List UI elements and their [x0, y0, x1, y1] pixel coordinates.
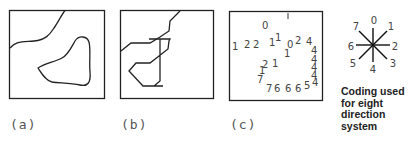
panel-b: [121, 11, 214, 99]
chain-code-digit: 4: [312, 77, 318, 88]
chain-code-digit: 2: [253, 39, 259, 50]
direction-label-2: 2: [392, 41, 398, 52]
chain-code-digit: 1: [275, 32, 281, 43]
direction-key: [356, 28, 390, 62]
panel-a-region-outline: [38, 37, 90, 85]
panel-b-frame: [121, 11, 214, 99]
chain-code-digit: 5: [304, 80, 310, 91]
chain-code-digit: 6: [274, 83, 280, 94]
direction-label-1: 1: [388, 21, 394, 32]
chain-code-digit: 1: [272, 58, 278, 69]
panel-c: 012211024142141474766654: [230, 12, 323, 101]
caption-line-3: direction: [341, 109, 411, 121]
chain-code-digit: 6: [285, 83, 291, 94]
chain-code-digit: 2: [244, 39, 250, 50]
chain-code-digit: 7: [257, 74, 263, 85]
caption-line-4: system: [341, 121, 411, 133]
panel-a-boundary-line: [10, 11, 65, 49]
direction-7-ray: [359, 31, 373, 45]
direction-key-caption: Coding used for eight direction system: [341, 86, 411, 132]
panel-a-label: (a): [10, 117, 36, 132]
direction-label-7: 7: [353, 21, 359, 32]
direction-5-ray: [359, 45, 373, 59]
panel-c-label: (c): [230, 117, 256, 132]
caption-line-1: Coding used: [341, 86, 411, 98]
chain-code-digit: 1: [232, 41, 238, 52]
direction-label-4: 4: [370, 64, 376, 75]
direction-label-3: 3: [390, 58, 396, 69]
panel-b-label: (b): [121, 117, 147, 132]
chain-code-digit: 1: [284, 48, 290, 59]
chain-code-digit: 7: [266, 83, 272, 94]
direction-1-ray: [373, 31, 387, 45]
panel-b-region-polygon: [129, 39, 170, 86]
direction-label-5: 5: [350, 58, 356, 69]
panel-b-boundary-line: [121, 11, 180, 51]
chain-code-digits: 012211024142141474766654: [232, 20, 318, 94]
chain-code-digit: 6: [295, 83, 301, 94]
direction-label-0: 0: [371, 15, 377, 26]
chain-code-digit: 0: [262, 20, 268, 31]
chain-code-digit: 2: [295, 35, 301, 46]
direction-3-ray: [373, 45, 387, 59]
panel-a: [10, 11, 105, 99]
direction-label-6: 6: [348, 41, 354, 52]
